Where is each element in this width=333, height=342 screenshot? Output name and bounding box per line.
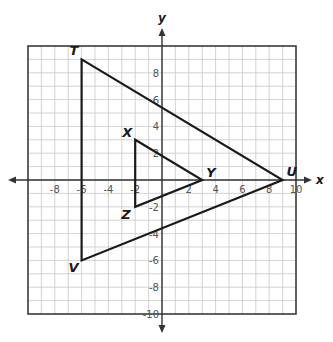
y-tick-label: -6 <box>149 255 159 266</box>
x-tick-label: 10 <box>290 184 303 195</box>
coordinate-plane-diagram: -8-6-4-22468108642-2-4-6-8-10 TUVXYZ x y <box>0 0 333 342</box>
x-tick-label: -4 <box>103 184 113 195</box>
vertex-labels: TUVXYZ <box>69 43 298 275</box>
x-axis-label: x <box>315 173 325 187</box>
y-axis-down-arrow-icon <box>159 325 166 333</box>
x-tick-label: -8 <box>50 184 60 195</box>
x-axis-left-arrow-icon <box>8 177 16 184</box>
vertex-label-y: Y <box>206 165 217 180</box>
x-tick-label: 6 <box>239 184 245 195</box>
y-tick-label: 4 <box>153 121 159 132</box>
tick-labels: -8-6-4-22468108642-2-4-6-8-10 <box>50 68 303 320</box>
y-axis-up-arrow-icon <box>159 28 166 36</box>
vertex-label-x: X <box>121 125 133 140</box>
vertex-label-z: Z <box>120 207 131 222</box>
vertex-label-u: U <box>287 164 298 179</box>
triangle-xyz <box>135 140 202 207</box>
y-tick-label: -8 <box>149 282 159 293</box>
coordinate-plane: -8-6-4-22468108642-2-4-6-8-10 TUVXYZ x y <box>0 0 333 342</box>
x-tick-label: 4 <box>212 184 218 195</box>
y-tick-label: 8 <box>153 68 159 79</box>
triangles <box>82 59 283 260</box>
vertex-label-t: T <box>70 43 80 58</box>
vertex-label-v: V <box>69 260 80 275</box>
y-tick-label: -10 <box>143 309 159 320</box>
y-axis-label: y <box>158 11 167 25</box>
x-axis-right-arrow-icon <box>304 177 312 184</box>
y-tick-label: -2 <box>149 202 159 213</box>
triangle-tuv <box>82 59 283 260</box>
